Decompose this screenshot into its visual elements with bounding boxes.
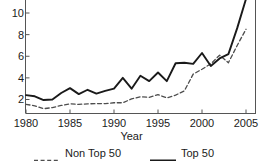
y-tick-marks bbox=[26, 13, 30, 100]
x-tick-marks bbox=[26, 110, 246, 114]
legend-swatch-solid-icon bbox=[150, 150, 176, 157]
chart-legend: Non Top 50 Top 50 bbox=[0, 146, 263, 160]
legend-entry-non-top-50: Non Top 50 bbox=[34, 146, 121, 160]
chart-container: 10 8 6 4 2 1980 1985 1990 1995 2000 2005… bbox=[0, 0, 263, 161]
legend-swatch-dashed-icon bbox=[34, 150, 60, 157]
series-line-non-top-50 bbox=[26, 29, 246, 108]
series-line-top-50 bbox=[26, 0, 246, 100]
legend-label-top-50: Top 50 bbox=[181, 148, 214, 159]
legend-entry-top-50: Top 50 bbox=[150, 146, 214, 160]
plot-area bbox=[0, 0, 263, 161]
legend-label-non-top-50: Non Top 50 bbox=[65, 148, 121, 159]
